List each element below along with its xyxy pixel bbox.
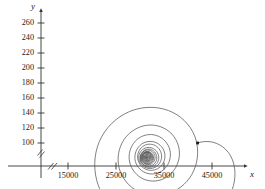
x-tick-label-15000: 15000 bbox=[43, 172, 93, 180]
phase-portrait-figure: 260 240 220 200 180 160 140 120 100 1500… bbox=[0, 0, 265, 189]
y-tick-label-140: 140 bbox=[4, 109, 34, 117]
y-tick-label-160: 160 bbox=[4, 94, 34, 102]
x-tick-label-45000: 45000 bbox=[187, 172, 237, 180]
y-axis-label: y bbox=[31, 2, 35, 11]
y-tick-label-240: 240 bbox=[4, 34, 34, 42]
y-tick-label-100: 100 bbox=[4, 139, 34, 147]
x-tick-label-25000: 25000 bbox=[91, 172, 141, 180]
y-tick-label-220: 220 bbox=[4, 49, 34, 57]
plot-canvas bbox=[0, 0, 265, 189]
y-tick-label-120: 120 bbox=[4, 124, 34, 132]
trajectory-start-marker bbox=[196, 142, 199, 145]
x-axis-label: x bbox=[250, 170, 254, 179]
y-tick-label-180: 180 bbox=[4, 79, 34, 87]
y-tick-label-200: 200 bbox=[4, 64, 34, 72]
y-tick-label-260: 260 bbox=[4, 19, 34, 27]
x-tick-label-35000: 35000 bbox=[139, 172, 189, 180]
